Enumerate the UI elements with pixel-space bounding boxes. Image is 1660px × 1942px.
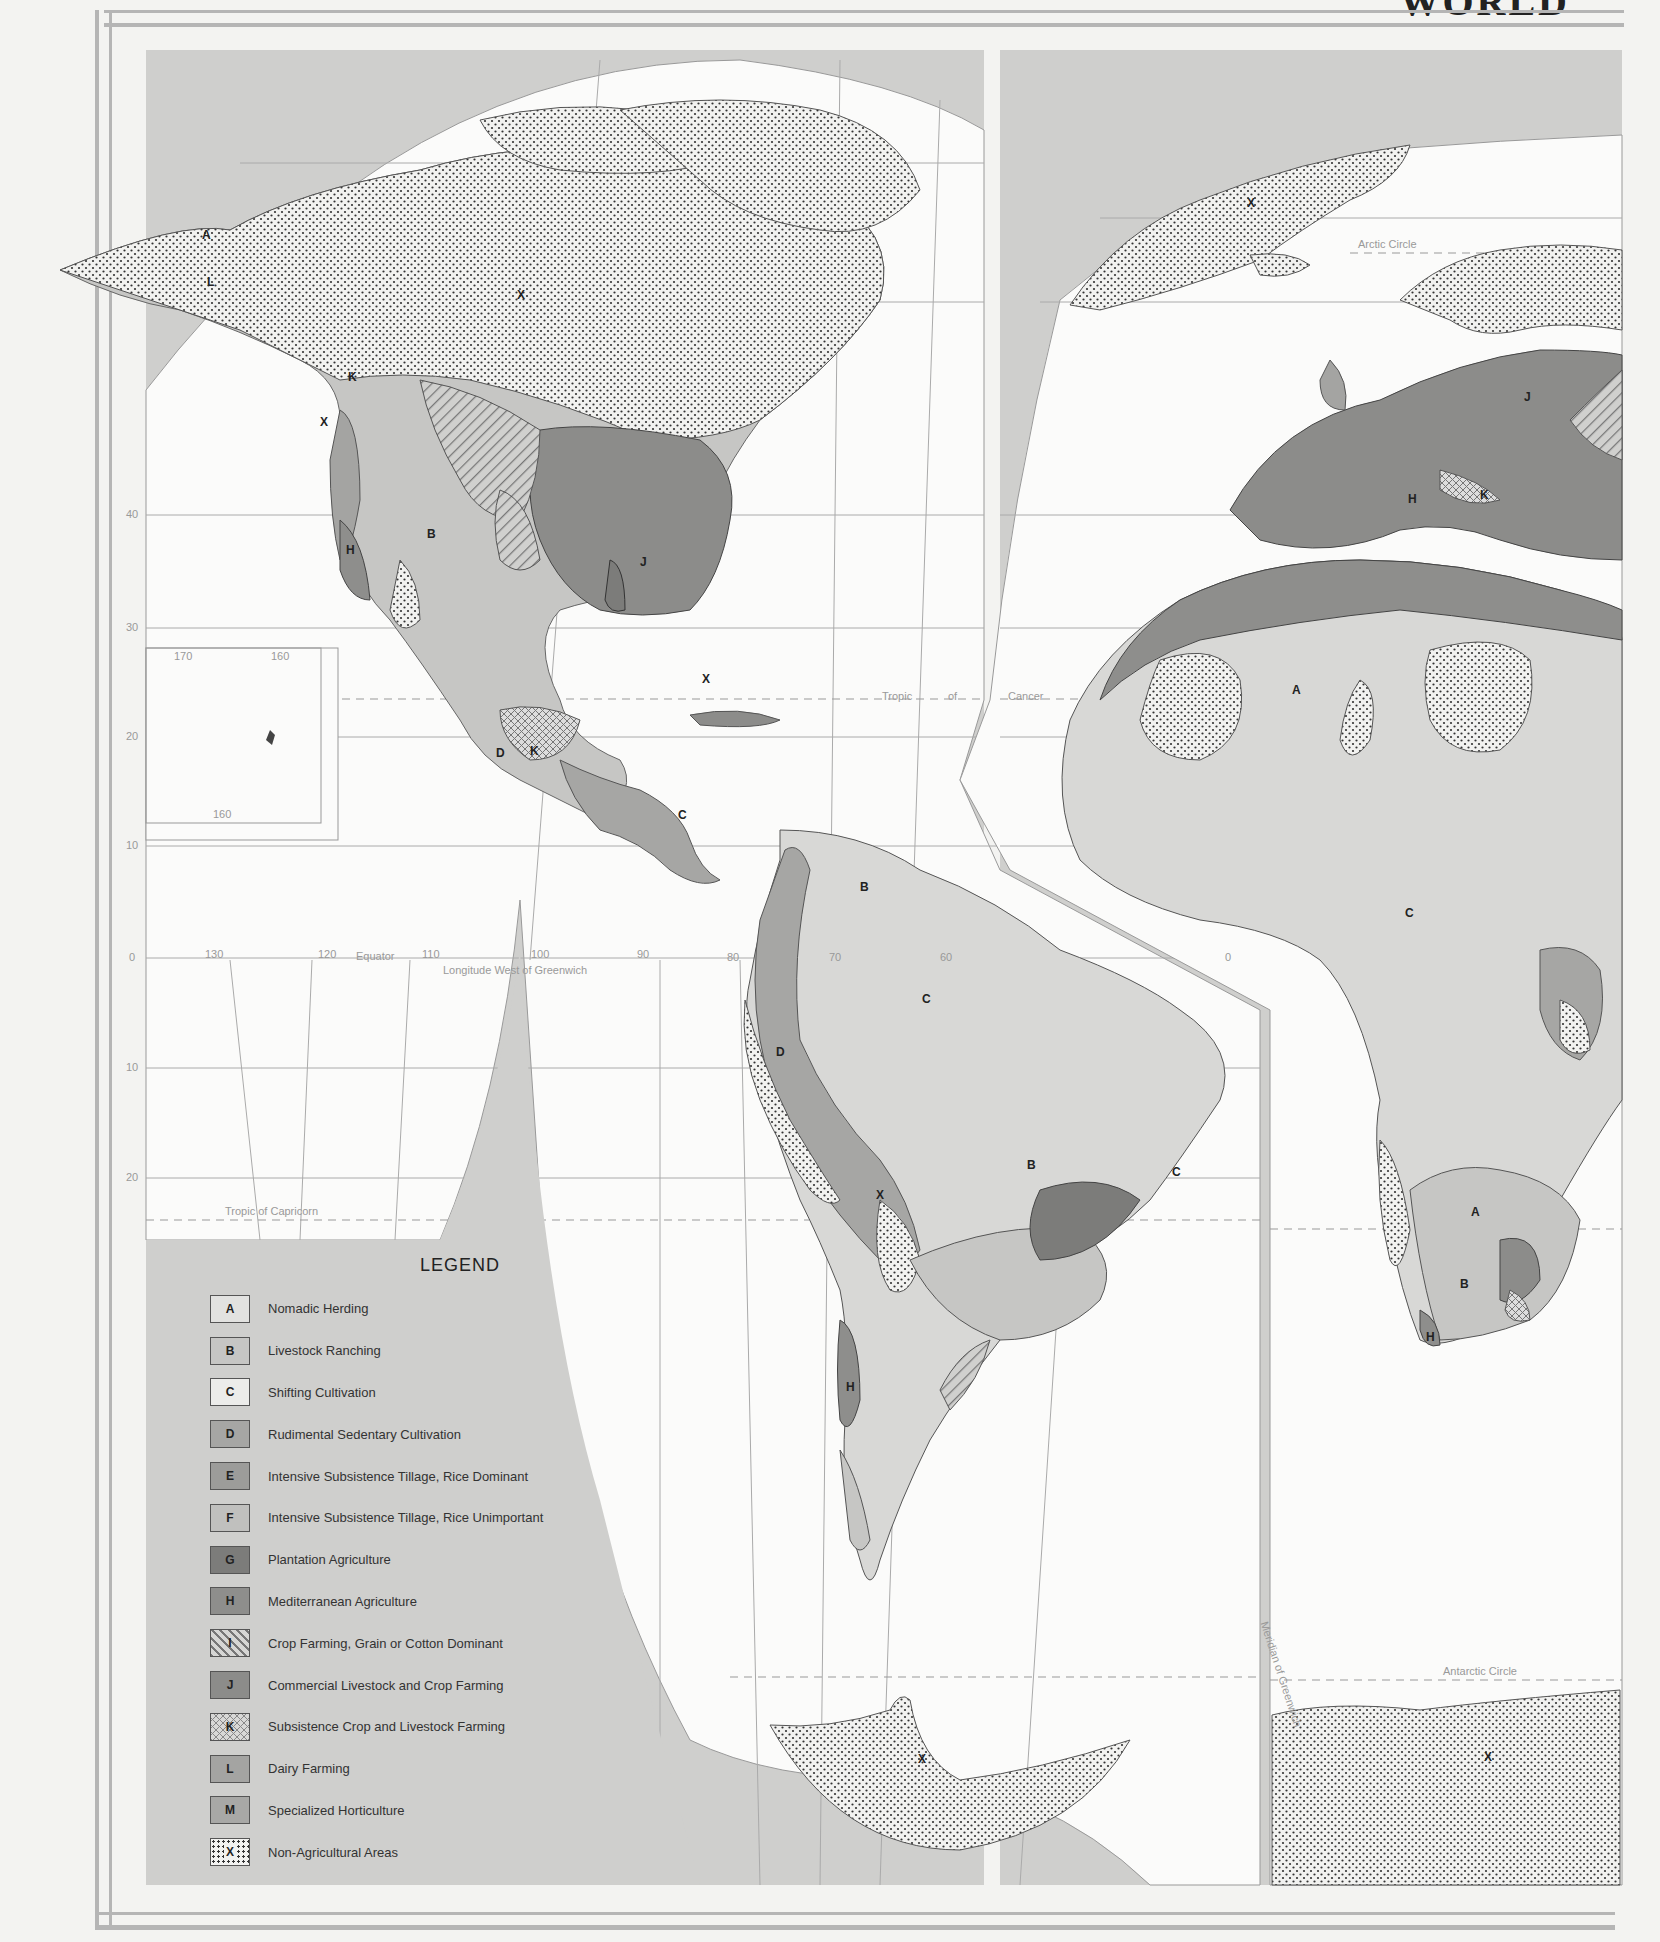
antarctic-circle-label: Antarctic Circle: [1443, 1665, 1517, 1677]
swatch-nomadic-herding: A: [210, 1295, 250, 1323]
legend-item-d: D Rudimental Sedentary Cultivation: [210, 1413, 650, 1455]
lon-70: 70: [829, 951, 841, 963]
legend-label: Mediterranean Agriculture: [268, 1594, 417, 1609]
inset-lon-160-top: 160: [271, 650, 289, 662]
legend: LEGEND A Nomadic Herding B Livestock Ran…: [210, 1255, 650, 1873]
swatch-code: M: [225, 1803, 235, 1817]
swatch-code: J: [227, 1678, 234, 1692]
region-label: K: [1480, 488, 1489, 502]
region-label: D: [496, 746, 505, 760]
tropic-label: Tropic: [882, 690, 912, 702]
legend-item-c: C Shifting Cultivation: [210, 1372, 650, 1414]
swatch-intensive-rice-dominant: E: [210, 1462, 250, 1490]
region-label: X: [1247, 196, 1255, 210]
swatch-plantation: G: [210, 1546, 250, 1574]
swatch-code: G: [225, 1553, 234, 1567]
lat-0: 0: [129, 951, 135, 963]
legend-label: Nomadic Herding: [268, 1301, 368, 1316]
legend-item-i: I Crop Farming, Grain or Cotton Dominant: [210, 1622, 650, 1664]
hawaii-inset: [146, 648, 338, 840]
legend-label: Shifting Cultivation: [268, 1385, 376, 1400]
legend-item-f: F Intensive Subsistence Tillage, Rice Un…: [210, 1497, 650, 1539]
swatch-code: C: [226, 1385, 235, 1399]
swatch-code: K: [226, 1720, 235, 1734]
legend-label: Commercial Livestock and Crop Farming: [268, 1678, 504, 1693]
legend-item-x: X Non-Agricultural Areas: [210, 1831, 650, 1873]
legend-label: Crop Farming, Grain or Cotton Dominant: [268, 1636, 503, 1651]
tropic-capricorn-label: Tropic of Capricorn: [225, 1205, 318, 1217]
legend-item-e: E Intensive Subsistence Tillage, Rice Do…: [210, 1455, 650, 1497]
swatch-mediterranean: H: [210, 1587, 250, 1615]
region-label: H: [846, 1380, 855, 1394]
swatch-code: A: [226, 1302, 235, 1316]
swatch-code: H: [226, 1594, 235, 1608]
lon-60: 60: [940, 951, 952, 963]
swatch-rudimental-sedentary: D: [210, 1420, 250, 1448]
legend-label: Livestock Ranching: [268, 1343, 381, 1358]
inset-lon-170: 170: [174, 650, 192, 662]
lon-90: 90: [637, 948, 649, 960]
legend-label: Rudimental Sedentary Cultivation: [268, 1427, 461, 1442]
lon-0: 0: [1225, 951, 1231, 963]
region-label: X: [1484, 1750, 1492, 1764]
region-label: K: [530, 744, 539, 758]
region-label: K: [348, 370, 357, 384]
region-label: C: [1405, 906, 1414, 920]
lat-10: 10: [126, 839, 138, 851]
region-label: X: [702, 672, 710, 686]
swatch-non-agricultural-dotted: X: [210, 1838, 250, 1866]
region-label: C: [678, 808, 687, 822]
region-label: J: [1524, 390, 1531, 404]
legend-title: LEGEND: [270, 1255, 650, 1276]
swatch-code: L: [226, 1762, 233, 1776]
region-label: B: [860, 880, 869, 894]
region-label: A: [1471, 1205, 1480, 1219]
legend-item-a: A Nomadic Herding: [210, 1288, 650, 1330]
region-label: H: [1426, 1330, 1435, 1344]
legend-item-g: G Plantation Agriculture: [210, 1539, 650, 1581]
legend-item-j: J Commercial Livestock and Crop Farming: [210, 1664, 650, 1706]
swatch-intensive-rice-unimportant: F: [210, 1504, 250, 1532]
lat-s10: 10: [126, 1061, 138, 1073]
region-label: H: [346, 543, 355, 557]
region-label: B: [1027, 1158, 1036, 1172]
region-label: X: [876, 1188, 884, 1202]
region-label: B: [1460, 1277, 1469, 1291]
region-label: H: [1408, 492, 1417, 506]
lon-80: 80: [727, 951, 739, 963]
legend-label: Non-Agricultural Areas: [268, 1845, 398, 1860]
region-label: D: [776, 1045, 785, 1059]
legend-label: Intensive Subsistence Tillage, Rice Unim…: [268, 1510, 543, 1525]
legend-label: Plantation Agriculture: [268, 1552, 391, 1567]
lon-110: 110: [422, 948, 440, 960]
inset-lon-160-bottom: 160: [213, 808, 231, 820]
region-label: L: [207, 275, 214, 289]
lat-s20: 20: [126, 1171, 138, 1183]
swatch-commercial-livestock-crop: J: [210, 1671, 250, 1699]
swatch-dairy: L: [210, 1755, 250, 1783]
region-label: A: [202, 228, 211, 242]
swatch-shifting-cultivation: C: [210, 1378, 250, 1406]
lon-120: 120: [318, 948, 336, 960]
lon-100: 100: [531, 948, 549, 960]
legend-item-m: M Specialized Horticulture: [210, 1790, 650, 1832]
tropic-cancer-label: Cancer: [1008, 690, 1043, 702]
region-label: J: [640, 555, 647, 569]
region-label: X: [320, 415, 328, 429]
region-label: X: [918, 1752, 926, 1766]
equator-label: Equator: [356, 950, 395, 962]
lat-30: 30: [126, 621, 138, 633]
tropic-of-label: of: [948, 690, 957, 702]
region-label: B: [427, 527, 436, 541]
swatch-subsistence-crosshatch: K: [210, 1713, 250, 1741]
region-label: A: [1292, 683, 1301, 697]
lat-40: 40: [126, 508, 138, 520]
legend-label: Intensive Subsistence Tillage, Rice Domi…: [268, 1469, 528, 1484]
swatch-code: D: [226, 1427, 235, 1441]
legend-item-l: L Dairy Farming: [210, 1748, 650, 1790]
swatch-code: X: [224, 1845, 236, 1859]
swatch-code: B: [226, 1344, 235, 1358]
swatch-crop-farming-hatched: I: [210, 1629, 250, 1657]
swatch-livestock-ranching: B: [210, 1337, 250, 1365]
lat-20: 20: [126, 730, 138, 742]
